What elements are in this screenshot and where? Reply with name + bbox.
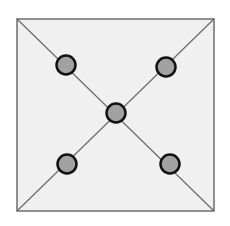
node-circle-center <box>107 104 126 123</box>
node-circle-bottom-right <box>161 155 180 174</box>
node-circle-top-right <box>157 58 176 77</box>
node-circle-bottom-left <box>58 155 77 174</box>
node-circle-top-left <box>57 56 76 75</box>
diagram-canvas <box>0 0 230 226</box>
